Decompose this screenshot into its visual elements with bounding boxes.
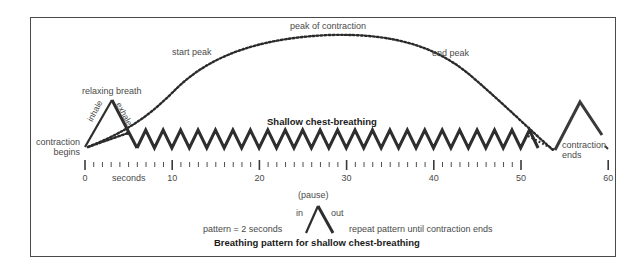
contraction-ends-line2: ends [562, 151, 606, 160]
tick-label-0: 0 [82, 174, 87, 183]
pattern-in-line [306, 206, 318, 233]
peak-of-contraction-label: peak of contraction [290, 22, 366, 31]
repeat-pattern-label: repeat pattern until contraction ends [349, 225, 493, 234]
pattern-duration-label: pattern = 2 seconds [203, 225, 282, 234]
end-peak-label: end peak [432, 49, 469, 58]
pause-label: (pause) [298, 191, 329, 200]
contraction-begins-label: contraction begins [32, 138, 80, 157]
tick-label-30: 30 [342, 174, 352, 183]
tick-label-60: 60 [603, 174, 613, 183]
contraction-ends-label: contraction ends [562, 141, 606, 160]
chart-title: Shallow chest-breathing [267, 117, 377, 127]
out-label: out [331, 209, 344, 218]
time-axis-ticks [85, 160, 608, 170]
pattern-caption: Breathing pattern for shallow chest-brea… [214, 238, 420, 248]
contraction-begins-line2: begins [32, 148, 80, 157]
contraction-ends-line1: contraction [562, 141, 606, 150]
tick-label-20: 20 [254, 174, 264, 183]
relaxing-breath-label: relaxing breath [82, 87, 142, 96]
axis-unit-label: seconds [112, 174, 146, 183]
contraction-begins-line1: contraction [32, 138, 80, 147]
in-label: in [296, 209, 303, 218]
tick-label-40: 40 [429, 174, 439, 183]
start-peak-label: start peak [172, 48, 212, 57]
breathing-diagram [0, 0, 643, 277]
tick-label-10: 10 [167, 174, 177, 183]
shallow-breathing-zigzag [137, 130, 538, 148]
curve-start-segment [88, 133, 128, 147]
tick-label-50: 50 [516, 174, 526, 183]
